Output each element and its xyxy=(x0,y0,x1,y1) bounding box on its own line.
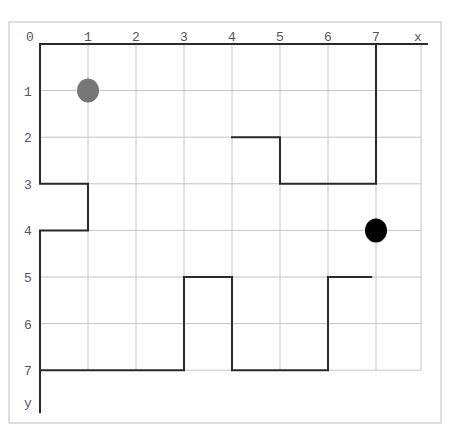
x-tick-label: 6 xyxy=(324,30,332,45)
y-tick-label: 4 xyxy=(24,224,32,239)
x-tick-label: 7 xyxy=(372,30,380,45)
x-tick-label: 1 xyxy=(84,30,92,45)
x-tick-label: 5 xyxy=(276,30,284,45)
y-tick-label: 3 xyxy=(24,178,32,193)
x-axis-label: x xyxy=(414,30,422,45)
x-tick-label: 4 xyxy=(228,30,236,45)
x-tick-label: 3 xyxy=(180,30,188,45)
start-marker xyxy=(77,79,99,103)
y-axis-label: y xyxy=(24,396,32,411)
x-tick-label: 2 xyxy=(132,30,140,45)
goal-marker xyxy=(365,218,387,242)
maze-diagram: 012345671234567 x y xyxy=(0,0,451,432)
y-tick-label: 6 xyxy=(24,318,32,333)
y-tick-label: 5 xyxy=(24,271,32,286)
y-tick-label: 7 xyxy=(24,364,32,379)
x-tick-label: 0 xyxy=(26,30,34,45)
y-tick-label: 1 xyxy=(24,85,32,100)
y-tick-label: 2 xyxy=(24,131,32,146)
